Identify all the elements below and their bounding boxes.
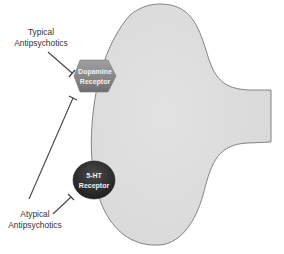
serotonin-receptor-label-line1: 5-HT xyxy=(86,172,102,179)
antipsychotic-receptor-diagram: Dopamine Receptor 5-HT Receptor Typical … xyxy=(0,0,284,254)
typical-label-line2: Antipsychotics xyxy=(10,37,72,48)
dopamine-receptor-label-line1: Dopamine xyxy=(78,68,112,76)
serotonin-receptor-label-line2: Receptor xyxy=(79,182,110,190)
atypical-antipsychotics-label: Atypical Antipsychotics xyxy=(4,208,66,230)
typical-label-line1: Typical xyxy=(10,26,72,37)
dopamine-receptor-label-line2: Receptor xyxy=(80,78,111,86)
typical-antipsychotics-label: Typical Antipsychotics xyxy=(10,26,72,48)
atypical-inhibits-dopamine-line xyxy=(29,96,77,199)
atypical-label-line2: Antipsychotics xyxy=(4,219,66,230)
serotonin-receptor: 5-HT Receptor xyxy=(73,161,115,199)
dopamine-receptor: Dopamine Receptor xyxy=(74,60,116,92)
atypical-label-line1: Atypical xyxy=(4,208,66,219)
typical-inhibits-dopamine-line xyxy=(48,52,75,77)
neuron-cell-body xyxy=(91,4,271,245)
